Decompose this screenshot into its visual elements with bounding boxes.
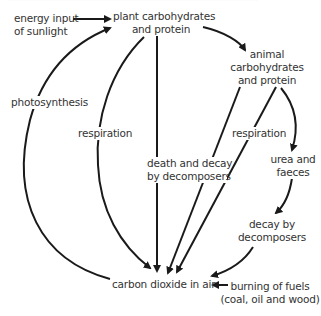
edge-label-photosynthesis: photosynthesis <box>11 96 88 109</box>
node-carbon-dioxide: carbon dioxide in air <box>112 278 215 291</box>
line-urea-to-decay <box>276 178 292 213</box>
node-label: and protein <box>113 23 209 36</box>
node-urea-faeces: urea and faeces <box>268 153 318 179</box>
edge-label-animal-respiration: respiration <box>232 127 286 140</box>
node-label: plant carbohydrates <box>113 10 209 23</box>
node-energy-sunlight: energy input of sunlight <box>14 12 79 38</box>
node-burning-fuels: burning of fuels (coal, oil and wood) <box>218 280 321 306</box>
node-label: faeces <box>268 166 318 179</box>
node-label: urea and <box>268 153 318 166</box>
node-animal: animal carbohydrates and protein <box>226 48 308 87</box>
edge-label-plant-respiration: respiration <box>78 127 132 140</box>
node-label: animal <box>226 48 308 61</box>
node-label: energy input <box>14 12 79 25</box>
node-label: carbohydrates <box>226 61 308 74</box>
arrow-plant-to-animal <box>203 27 245 50</box>
node-plant: plant carbohydrates and protein <box>113 10 209 36</box>
node-label: burning of fuels <box>218 280 321 293</box>
arrow-animal-to-urea <box>281 88 296 150</box>
node-label: (coal, oil and wood) <box>218 293 321 306</box>
node-label: of sunlight <box>14 25 79 38</box>
arrow-plant-respiration <box>98 37 150 268</box>
node-label: carbon dioxide in air <box>112 278 215 290</box>
arrow-decay-to-co2 <box>212 247 253 276</box>
edge-label-death-decay: death and decay by decomposers <box>147 157 227 183</box>
node-label: and protein <box>226 74 308 87</box>
edge-label-decay-decomposers: decay by decomposers <box>237 218 307 244</box>
